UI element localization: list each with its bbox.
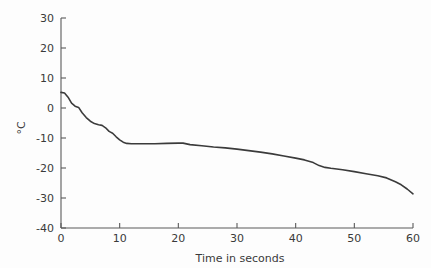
x-tick-label: 0 [58,232,65,245]
line-chart-plot: -40-30-20-100102030 0102030405060 Time i… [0,0,431,268]
x-tick-label: 50 [347,232,361,245]
y-tick-label: -30 [36,192,54,205]
x-axis-ticks: 0102030405060 [58,223,421,245]
y-tick-label: -40 [36,222,54,235]
y-tick-label: 20 [40,42,54,55]
x-tick-label: 30 [230,232,244,245]
data-series-temperature [61,92,413,193]
x-tick-label: 10 [113,232,127,245]
x-axis-title: Time in seconds [195,252,285,265]
y-tick-label: -20 [36,162,54,175]
y-tick-label: -10 [36,132,54,145]
x-tick-label: 20 [171,232,185,245]
x-tick-label: 40 [289,232,303,245]
y-tick-label: 0 [47,102,54,115]
y-tick-label: 30 [40,12,54,25]
x-tick-label: 60 [406,232,420,245]
chart-figure: -40-30-20-100102030 0102030405060 Time i… [0,0,431,268]
y-axis-title: °C [15,121,28,135]
y-tick-label: 10 [40,72,54,85]
